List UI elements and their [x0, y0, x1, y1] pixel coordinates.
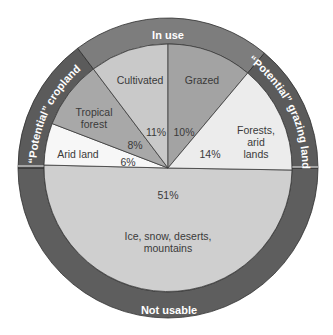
pct-cultivated: 11%: [146, 126, 166, 138]
label-forests-line1: Forests,: [237, 124, 275, 136]
label-arid-land: Arid land: [57, 148, 99, 160]
label-forests-line2: arid: [247, 136, 265, 148]
land-use-pie-chart: Cultivated 11% Grazed 10% Forests, arid …: [0, 0, 333, 335]
pct-arid: 6%: [120, 156, 135, 168]
label-tropical-line1: Tropical: [76, 106, 113, 118]
label-forests-line3: lands: [243, 148, 268, 160]
label-ice-line2: mountains: [144, 242, 192, 254]
pct-forests: 14%: [199, 148, 220, 160]
pct-grazed: 10%: [173, 126, 194, 138]
pct-tropical: 8%: [127, 139, 142, 151]
label-tropical-line2: forest: [81, 118, 107, 130]
label-cultivated: Cultivated: [117, 74, 164, 86]
label-grazed: Grazed: [185, 74, 220, 86]
ring-label-not-usable: Not usable: [141, 304, 197, 316]
pct-ice: 51%: [157, 189, 178, 201]
ring-label-in-use: In use: [152, 29, 184, 41]
label-ice-line1: Ice, snow, deserts,: [125, 230, 212, 242]
